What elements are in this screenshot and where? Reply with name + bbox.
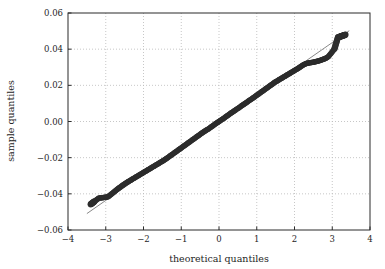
x-tick-label: −1 [175, 234, 188, 244]
x-tick-label: 3 [330, 234, 335, 244]
x-tick-label: −2 [137, 234, 150, 244]
x-tick-label: 1 [254, 234, 259, 244]
x-tick-label: 0 [216, 234, 221, 244]
y-tick-label: 0.02 [44, 80, 63, 90]
y-tick-label: 0.00 [44, 117, 63, 127]
y-tick-label: −0.02 [37, 153, 63, 163]
x-tick-label: 4 [367, 234, 372, 244]
y-tick-label: 0.04 [44, 44, 63, 54]
y-tick-label: −0.04 [37, 189, 63, 199]
x-tick-label: −3 [99, 234, 112, 244]
y-axis-title: sample quantiles [5, 80, 16, 162]
y-tick-label: 0.06 [44, 8, 63, 18]
y-tick-label: −0.06 [37, 225, 63, 235]
x-tick-label: 2 [292, 234, 297, 244]
qq-plot-figure: −4−3−2−101234 −0.06−0.04−0.020.000.020.0… [0, 0, 385, 269]
x-tick-label: −4 [62, 234, 75, 244]
x-axis-title: theoretical quantiles [169, 253, 269, 264]
plot-canvas: −4−3−2−101234 −0.06−0.04−0.020.000.020.0… [0, 0, 385, 269]
